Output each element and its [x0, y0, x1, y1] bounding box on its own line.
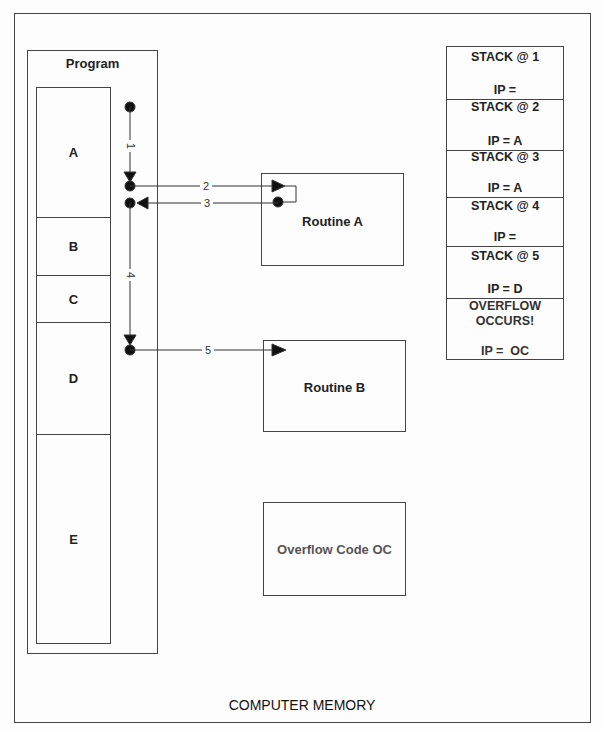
stack-row-5: STACK @ 5 IP = D	[447, 246, 563, 298]
stack-row-4: STACK @ 4 IP =	[447, 197, 563, 246]
stack-ip: IP =	[447, 230, 563, 244]
stack-title: STACK @ 5	[447, 249, 563, 263]
routine-a-label: Routine A	[302, 214, 363, 229]
segment-e: E	[37, 434, 110, 643]
program-segments: A B C D E	[36, 87, 111, 644]
stack-row-1: STACK @ 1 IP =	[447, 47, 563, 99]
segment-c: C	[37, 275, 110, 322]
stack-row-2: STACK @ 2 IP = A	[447, 99, 563, 150]
program-title: Program	[28, 56, 157, 71]
stack-ip: IP = D	[447, 282, 563, 296]
diagram-caption: COMPUTER MEMORY	[14, 697, 590, 713]
stack-title: STACK @ 2	[447, 100, 563, 114]
stack-ip: IP = OC	[447, 344, 563, 358]
stack-ip: IP =	[447, 83, 563, 97]
stack-title: OVERFLOW OCCURS!	[447, 299, 563, 329]
stack-column: STACK @ 1 IP = STACK @ 2 IP = A STACK @ …	[446, 46, 564, 360]
overflow-code-label: Overflow Code OC	[277, 542, 392, 557]
stack-ip: IP = A	[447, 134, 563, 148]
segment-a: A	[37, 88, 110, 217]
overflow-code-box: Overflow Code OC	[263, 502, 406, 596]
routine-a-box: Routine A	[261, 173, 404, 266]
stack-row-3: STACK @ 3 IP = A	[447, 150, 563, 197]
routine-b-box: Routine B	[263, 340, 406, 432]
stack-title: STACK @ 3	[447, 150, 563, 164]
routine-b-label: Routine B	[304, 380, 365, 395]
stack-title: STACK @ 4	[447, 199, 563, 213]
segment-b: B	[37, 217, 110, 275]
segment-d: D	[37, 322, 110, 434]
stack-row-overflow: OVERFLOW OCCURS! IP = OC	[447, 298, 563, 360]
stack-title: STACK @ 1	[447, 50, 563, 64]
stack-ip: IP = A	[447, 181, 563, 195]
